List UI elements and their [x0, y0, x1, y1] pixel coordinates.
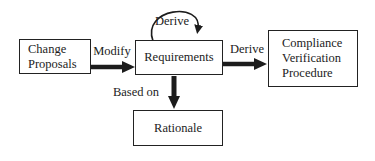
node-compliance-verification-procedure-label: Compliance Verification Procedure — [282, 36, 342, 80]
derive-self-loop-label: Derive — [149, 15, 195, 29]
modify-arrow-label: Modify — [91, 45, 133, 59]
based-on-arrow-label: Based on — [111, 86, 161, 100]
node-rationale: Rationale — [133, 110, 223, 146]
node-requirements: Requirements — [135, 40, 223, 75]
node-compliance-verification-procedure: Compliance Verification Procedure — [268, 30, 358, 87]
node-rationale-label: Rationale — [154, 121, 202, 136]
node-requirements-label: Requirements — [144, 50, 213, 65]
derive-arrow-label: Derive — [226, 43, 268, 57]
node-change-proposals-label: Change Proposals — [28, 42, 77, 72]
flow-diagram: Change Proposals Requirements Compliance… — [0, 0, 375, 161]
node-change-proposals: Change Proposals — [19, 39, 91, 74]
